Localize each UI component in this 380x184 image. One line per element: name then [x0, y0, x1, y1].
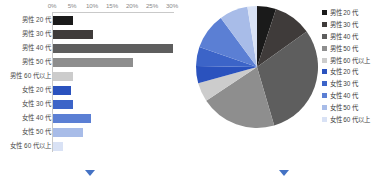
bar-category-label: 女性 60 代以上: [10, 141, 51, 150]
legend-swatch-icon: [322, 117, 327, 122]
bar-segment: [53, 128, 83, 137]
legend-item: 男性 60 代以上: [322, 54, 380, 66]
bar-category-label: 男性 60 代以上: [10, 71, 51, 80]
bar-category-label: 女性 40 代: [22, 113, 51, 122]
axis-tick-label: 15%: [106, 2, 118, 9]
legend-swatch-icon: [322, 105, 327, 110]
bar-category-label: 男性 40 代: [22, 43, 51, 52]
bar-chart-panel: 0%5%10%15%20%25%30% 男性 20 代男性 30 代男性 40 …: [0, 0, 190, 184]
axis-tick-label: 0%: [48, 2, 57, 9]
axis-tick-label: 30%: [166, 2, 178, 9]
bar-row: 女性 40 代: [53, 111, 174, 125]
bar-row: 男性 20 代: [53, 13, 174, 27]
bar-row: 女性 30 代: [53, 97, 174, 111]
bar-segment: [53, 58, 133, 67]
down-triangle-icon-left[interactable]: [85, 170, 95, 176]
pie-chart-legend: 男性 20 代男性 30 代男性 40 代男性 50 代男性 60 代以上女性 …: [322, 7, 380, 125]
bar-row: 男性 60 代以上: [53, 69, 174, 83]
bar-segment: [53, 44, 173, 53]
bar-row: 女性 60 代以上: [53, 139, 174, 153]
axis-tick-label: 5%: [68, 2, 77, 9]
legend-label: 女性 50 代: [330, 104, 359, 111]
legend-swatch-icon: [322, 10, 327, 15]
legend-item: 女性 50 代: [322, 101, 380, 113]
bar-category-label: 男性 50 代: [22, 57, 51, 66]
bar-chart-plot-area: 男性 20 代男性 30 代男性 40 代男性 50 代男性 60 代以上女性 …: [52, 12, 174, 152]
bar-category-label: 女性 50 代: [22, 127, 51, 136]
bar-row: 女性 50 代: [53, 125, 174, 139]
pie-chart-graphic: [195, 5, 319, 129]
legend-label: 男性 50 代: [330, 45, 359, 52]
axis-tick-label: 25%: [146, 2, 158, 9]
bar-category-label: 女性 20 代: [22, 85, 51, 94]
legend-swatch-icon: [322, 34, 327, 39]
legend-item: 男性 30 代: [322, 19, 380, 31]
legend-swatch-icon: [322, 69, 327, 74]
legend-item: 女性 60 代以上: [322, 113, 380, 125]
bar-category-label: 男性 30 代: [22, 29, 51, 38]
bar-row: 男性 40 代: [53, 41, 174, 55]
bar-chart-x-axis: 0%5%10%15%20%25%30%: [44, 2, 184, 12]
legend-swatch-icon: [322, 46, 327, 51]
legend-label: 女性 60 代以上: [330, 116, 371, 123]
legend-item: 男性 50 代: [322, 42, 380, 54]
legend-swatch-icon: [322, 93, 327, 98]
bar-row: 男性 50 代: [53, 55, 174, 69]
legend-label: 女性 20 代: [330, 68, 359, 75]
bar-segment: [53, 114, 91, 123]
bar-segment: [53, 30, 93, 39]
legend-label: 女性 30 代: [330, 80, 359, 87]
legend-swatch-icon: [322, 22, 327, 27]
down-triangle-icon-right[interactable]: [279, 170, 289, 176]
bar-segment: [53, 142, 63, 151]
axis-tick-label: 20%: [126, 2, 138, 9]
legend-item: 男性 40 代: [322, 31, 380, 43]
bar-row: 男性 30 代: [53, 27, 174, 41]
legend-label: 女性 40 代: [330, 92, 359, 99]
pie-chart-panel: 男性 20 代男性 30 代男性 40 代男性 50 代男性 60 代以上女性 …: [190, 0, 380, 184]
axis-tick-label: 10%: [86, 2, 98, 9]
legend-item: 女性 40 代: [322, 90, 380, 102]
legend-item: 男性 20 代: [322, 7, 380, 19]
bar-segment: [53, 72, 73, 81]
bar-category-label: 男性 20 代: [22, 15, 51, 24]
legend-label: 男性 40 代: [330, 33, 359, 40]
legend-swatch-icon: [322, 58, 327, 63]
bar-segment: [53, 16, 73, 25]
legend-label: 男性 60 代以上: [330, 57, 371, 64]
bar-segment: [53, 86, 71, 95]
legend-swatch-icon: [322, 81, 327, 86]
bar-row: 女性 20 代: [53, 83, 174, 97]
chart-pair-container: 0%5%10%15%20%25%30% 男性 20 代男性 30 代男性 40 …: [0, 0, 380, 184]
legend-label: 男性 30 代: [330, 21, 359, 28]
bar-category-label: 女性 30 代: [22, 99, 51, 108]
legend-item: 女性 20 代: [322, 66, 380, 78]
legend-item: 女性 30 代: [322, 78, 380, 90]
legend-label: 男性 20 代: [330, 9, 359, 16]
bar-segment: [53, 100, 73, 109]
pie-chart-svg: [195, 5, 319, 129]
